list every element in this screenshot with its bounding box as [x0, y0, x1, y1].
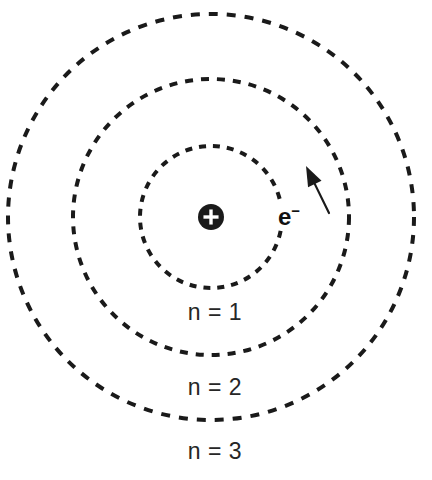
orbit-direction-arrow — [306, 166, 329, 213]
atom-diagram-canvas — [0, 0, 432, 480]
shell-label-n1: n = 1 — [188, 299, 242, 326]
shell-label-n2: n = 2 — [188, 374, 242, 401]
arrow-shaft — [313, 180, 329, 213]
electron-letter: e — [278, 203, 291, 230]
bohr-model-diagram: e− n = 1 n = 2 n = 3 — [0, 0, 432, 480]
nucleus — [198, 204, 224, 230]
arrow-head-icon — [306, 166, 322, 187]
shell-label-n3: n = 3 — [188, 438, 242, 465]
electron-charge-superscript: − — [291, 203, 300, 219]
electron-label: e− — [275, 204, 303, 229]
